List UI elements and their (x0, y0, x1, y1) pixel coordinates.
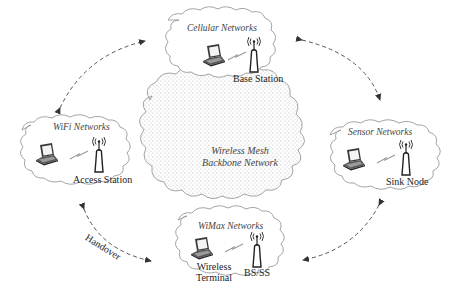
access-station-label: Access Station (73, 175, 132, 185)
cellular-title: Cellular Networks (187, 24, 257, 34)
wifi-title: WiFi Networks (53, 123, 110, 133)
bs-ss-label: BS/SS (244, 268, 270, 278)
wireless-terminal-label: Wireless Terminal (191, 262, 237, 283)
network-diagram: Cellular Networks Base Station WiFi Netw… (0, 0, 461, 298)
backbone-title-line2: Backbone Network (195, 158, 285, 168)
backbone-title: Wireless Mesh Backbone Network (195, 146, 285, 168)
base-station-label: Base Station (233, 74, 283, 84)
backbone-cloud (139, 65, 304, 199)
sensor-title: Sensor Networks (348, 128, 412, 138)
cellular-cloud (165, 7, 275, 78)
sink-node-label: Sink Node (386, 177, 429, 187)
arrow-cellular-sensor (302, 40, 380, 100)
wireless-terminal-line1: Wireless (191, 262, 237, 272)
backbone-title-line1: Wireless Mesh (195, 146, 285, 156)
wimax-title: WiMax Networks (198, 222, 263, 232)
arrow-wifi-cellular (60, 41, 145, 108)
arrow-sensor-wimax (303, 205, 379, 260)
wireless-terminal-line2: Terminal (191, 273, 237, 283)
